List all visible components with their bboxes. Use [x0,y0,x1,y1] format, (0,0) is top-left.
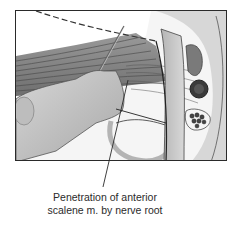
caption-line-2: scalene m. by nerve root [30,204,180,217]
illustration-frame [15,10,227,161]
figure-caption: Penetration of anterior scalene m. by ne… [30,191,180,217]
anatomy-illustration [16,11,227,161]
anatomical-figure: Penetration of anterior scalene m. by ne… [0,0,247,242]
caption-line-1: Penetration of anterior [30,191,180,204]
